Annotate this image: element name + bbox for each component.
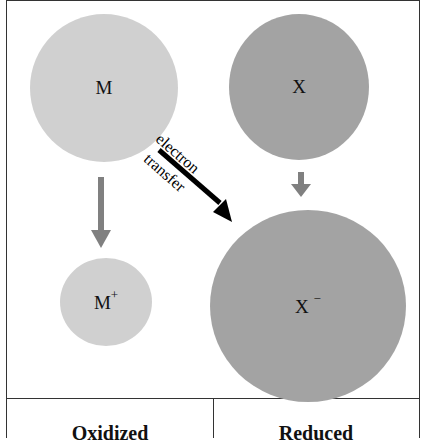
column-header-oxidized: Oxidized	[10, 422, 210, 444]
oxidation-arrow-icon	[91, 177, 111, 248]
column-header-reduced: Reduced	[216, 422, 416, 444]
reduction-arrow-icon	[291, 172, 311, 197]
